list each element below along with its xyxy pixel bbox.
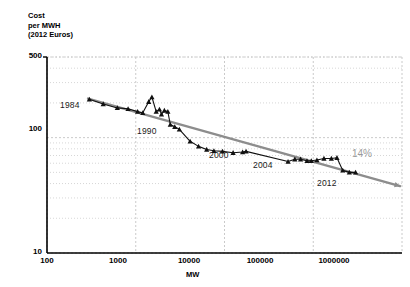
annotation-2012: 2012 xyxy=(317,178,337,188)
annotation-1990: 1990 xyxy=(137,126,157,136)
x-tick-1000: 1000 xyxy=(98,256,138,265)
plot-area xyxy=(0,0,410,287)
data-point-marker xyxy=(162,108,167,113)
x-tick-1000000: 1000000 xyxy=(311,256,357,265)
data-point-marker xyxy=(157,107,162,112)
x-tick-10000: 10000 xyxy=(169,256,209,265)
y-tick-100: 100 xyxy=(18,124,42,133)
x-tick-100000: 100000 xyxy=(240,256,280,265)
data-point-marker xyxy=(196,144,201,149)
annotation-1984: 1984 xyxy=(60,100,80,110)
annotation-learning-rate: 14% xyxy=(352,148,372,159)
data-point-marker xyxy=(172,124,177,129)
data-point-marker xyxy=(177,127,182,132)
x-tick-100: 100 xyxy=(27,256,67,265)
annotation-2004: 2004 xyxy=(253,160,273,170)
annotation-2000: 2000 xyxy=(209,150,229,160)
y-tick-10: 10 xyxy=(18,247,42,256)
data-point-marker xyxy=(149,94,154,99)
x-axis-title: MW xyxy=(186,270,199,280)
experience-curve-chart: Cost per MWH (2012 Euros) 500 100 10 100… xyxy=(0,0,410,287)
y-tick-500: 500 xyxy=(18,51,42,60)
